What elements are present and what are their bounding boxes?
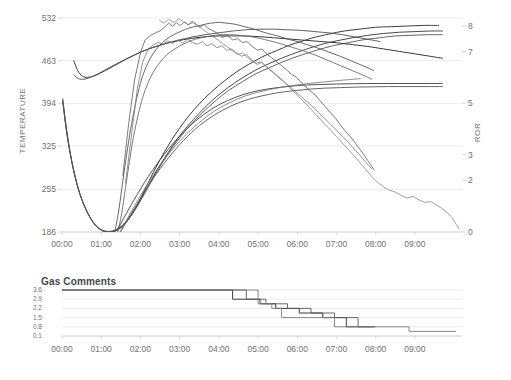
- ror-axis-title: ROR: [473, 123, 482, 142]
- main-time-tick-label: 03:00: [158, 240, 202, 249]
- series-line: [74, 36, 443, 77]
- series-line: [121, 87, 443, 232]
- series-line: [115, 22, 374, 231]
- temperature-tick-label: 394: [22, 99, 56, 108]
- main-time-tick-label: 04:00: [197, 240, 241, 249]
- gas-time-tick-label: 03:00: [158, 345, 202, 354]
- gas-tick-label: 2.9: [22, 296, 42, 303]
- main-time-tick-label: 07:00: [315, 240, 359, 249]
- series-line: [159, 19, 459, 229]
- main-time-tick-label: 05:00: [236, 240, 280, 249]
- gas-time-tick-label: 07:00: [315, 345, 359, 354]
- main-time-tick-label: 00:00: [40, 240, 84, 249]
- series-step-line: [62, 290, 456, 331]
- ror-tick-label: 5: [468, 99, 488, 108]
- roast-profile-page: TEMPERATURE ROR 186255325394463532 02357…: [0, 0, 511, 380]
- temperature-tick-label: 325: [22, 142, 56, 151]
- temperature-tick-label: 463: [22, 57, 56, 66]
- gas-time-tick-label: 00:00: [40, 345, 84, 354]
- temperature-ror-chart: TEMPERATURE ROR 186255325394463532 02357…: [0, 0, 511, 258]
- main-time-tick-label: 08:00: [354, 240, 398, 249]
- series-group: [62, 290, 456, 331]
- gas-time-tick-label: 01:00: [79, 345, 123, 354]
- main-time-tick-label: 01:00: [79, 240, 123, 249]
- gas-time-tick-label: 04:00: [197, 345, 241, 354]
- temperature-tick-label: 255: [22, 185, 56, 194]
- ror-tick-label: 0: [468, 228, 488, 237]
- ror-tick-label: 7: [468, 48, 488, 57]
- gas-tick-label: 3.6: [22, 287, 42, 294]
- series-line: [120, 79, 360, 232]
- main-time-tick-label: 09:00: [393, 240, 437, 249]
- main-time-tick-label: 06:00: [275, 240, 319, 249]
- gas-comments-plot: [0, 262, 511, 380]
- gas-time-tick-label: 02:00: [118, 345, 162, 354]
- gas-tick-label: 2.2: [22, 305, 42, 312]
- main-time-tick-label: 02:00: [118, 240, 162, 249]
- gas-tick-label: 1.5: [22, 315, 42, 322]
- ror-tick-label: 8: [468, 22, 488, 31]
- ror-tick-label: 2: [468, 176, 488, 185]
- gas-time-tick-label: 05:00: [236, 345, 280, 354]
- gas-tick-label: 0.1: [22, 333, 42, 340]
- ror-tick-label: 3: [468, 151, 488, 160]
- series-line: [63, 25, 439, 232]
- gas-comments-chart: 0.10.81.52.22.93.6 00:0001:0002:0003:000…: [0, 262, 511, 380]
- gas-time-tick-label: 09:00: [393, 345, 437, 354]
- gas-time-tick-label: 06:00: [275, 345, 319, 354]
- temperature-ror-plot: [0, 0, 511, 258]
- gas-time-tick-label: 08:00: [354, 345, 398, 354]
- temperature-tick-label: 186: [22, 228, 56, 237]
- temperature-tick-label: 532: [22, 14, 56, 23]
- series-group: [63, 19, 459, 233]
- gas-tick-label: 0.8: [22, 324, 42, 331]
